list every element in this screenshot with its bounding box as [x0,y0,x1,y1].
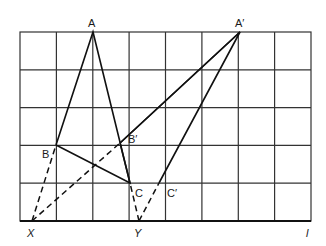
label-X: X [26,227,35,239]
transformation-diagram: A B C A′ B′ C′ X Y l [0,0,326,246]
label-A: A [88,17,96,29]
label-C: C [135,187,143,199]
label-B: B [42,148,49,160]
label-Y: Y [134,227,142,239]
label-C-prime: C′ [167,187,177,199]
dashed-construction-lines [32,143,159,221]
label-A-prime: A′ [235,17,244,29]
label-line-l: l [306,227,309,239]
a-prime-to-b-prime-extension [120,32,240,143]
label-B-prime: B′ [128,133,137,145]
triangle-abc-prime [20,32,240,221]
